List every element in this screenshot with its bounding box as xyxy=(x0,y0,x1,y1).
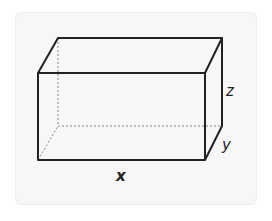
label-y: y xyxy=(221,136,232,154)
label-x: x xyxy=(115,167,127,185)
label-z: z xyxy=(225,82,235,100)
hidden-depth-edge xyxy=(38,126,58,160)
visible-edges xyxy=(38,38,222,160)
front-face xyxy=(38,73,205,160)
top-face xyxy=(38,38,222,73)
prism-diagram: z y x xyxy=(0,0,272,221)
hidden-edges xyxy=(38,38,222,160)
